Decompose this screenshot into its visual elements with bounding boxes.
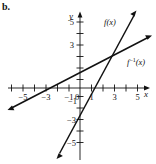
y-tick-label-neg5: −5 <box>67 138 76 148</box>
x-tick-label-5: 5 <box>135 92 139 102</box>
x-tick-label-neg3: −3 <box>41 92 50 102</box>
y-tick-labels: 5 3 −1 −3 −5 <box>67 17 77 148</box>
f-label-arg: (x) <box>106 17 116 27</box>
f-line-segment <box>60 16 135 154</box>
y-tick-label-3: 3 <box>70 40 74 50</box>
y-tick-label-neg3: −3 <box>67 115 76 125</box>
y-axis-arrow-icon <box>78 12 83 18</box>
x-axis-label: x <box>143 89 148 99</box>
figure-panel: b. <box>0 0 156 164</box>
curve-label-f-inverse: f−1(x) <box>127 57 145 68</box>
y-axis-label: y <box>68 11 73 21</box>
f-line-start-arrow-icon <box>57 153 63 159</box>
x-tick-labels: −5 −3 −1 0 1 3 5 <box>18 92 139 102</box>
f-label-text: f(x) <box>104 17 116 27</box>
f-inverse-label-arg: (x) <box>136 57 146 67</box>
f-inverse-label-text: f−1(x) <box>127 57 145 68</box>
f-line-end-arrow-icon <box>130 11 136 17</box>
curve-label-f: f(x) <box>104 17 116 27</box>
x-tick-label-3: 3 <box>112 92 116 102</box>
coordinate-plot: −5 −3 −1 0 1 3 5 5 3 −1 −3 −5 y x <box>0 0 156 164</box>
y-tick-label-neg1: −1 <box>68 96 77 106</box>
series-f-line <box>57 11 137 160</box>
